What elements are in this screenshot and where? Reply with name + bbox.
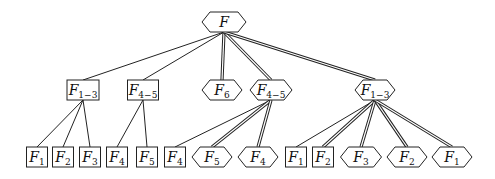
node-label: F	[218, 14, 230, 30]
tree-node-box: F1	[286, 147, 307, 167]
tree-edge-single	[83, 100, 90, 147]
tree-edge-double	[375, 100, 407, 147]
tree-edge-double	[212, 100, 271, 147]
tree-edge-double	[222, 32, 224, 80]
tree-node-hexagon: F4	[238, 147, 278, 167]
tree-node-box: F5	[137, 147, 158, 167]
tree-node-hexagon: F6	[202, 80, 242, 100]
tree-edge-single	[143, 32, 224, 80]
tree-node-box: F2	[53, 147, 74, 167]
tree-node-box: F1−3	[67, 80, 99, 100]
tree-node-hexagon: F3	[341, 147, 382, 167]
tree-node-box: F1	[27, 147, 48, 167]
tree-node-box: F2	[313, 147, 334, 167]
tree-node-hexagon: F1−3	[355, 80, 395, 100]
tree-node-hexagon: F1	[432, 147, 472, 167]
tree-node-hexagon: F2	[387, 147, 427, 167]
tree-edge-single	[117, 100, 143, 147]
tree-edge-single	[63, 100, 83, 147]
tree-node-box: F4−5	[128, 80, 159, 100]
tree-edge-single	[83, 32, 224, 80]
tree-node-box: F4	[107, 147, 128, 167]
tree-node-hexagon: F5	[192, 147, 232, 167]
tree-node-hexagon: F4−5	[250, 80, 292, 100]
tree-edge-single	[37, 100, 83, 147]
tree-node-box: F4	[165, 147, 186, 167]
tree-edge-double	[375, 100, 452, 147]
tree-diagram: FF1−3F4−5F6F4−5F1−3F1F2F3F4F5F4F5F4F1F2F…	[0, 0, 495, 179]
tree-node-hexagon: F	[202, 12, 246, 32]
tree-edge-single	[143, 100, 147, 147]
tree-node-box: F3	[80, 147, 101, 167]
